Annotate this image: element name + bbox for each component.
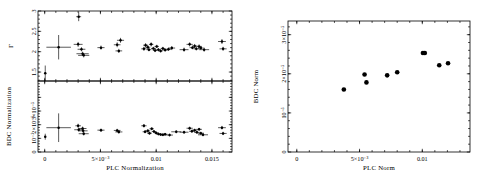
y-tick-label: 2.5	[30, 27, 37, 35]
data-point	[57, 126, 60, 129]
right-x-axis-label: PLC Norm	[363, 164, 395, 171]
data-point	[437, 63, 442, 68]
data-point	[154, 49, 157, 52]
y-tick-label: 2×10⁻⁵	[280, 65, 287, 83]
data-point	[77, 15, 80, 18]
data-point	[147, 130, 150, 133]
data-point	[364, 80, 369, 85]
data-point	[153, 130, 156, 133]
data-point	[183, 131, 186, 134]
y-tick-label: 2	[30, 50, 37, 53]
data-point	[168, 134, 171, 137]
data-point	[200, 132, 203, 135]
data-point	[144, 44, 147, 47]
data-point	[150, 43, 153, 46]
data-point	[385, 73, 390, 78]
data-point	[157, 133, 160, 136]
data-point	[148, 48, 151, 51]
data-point	[82, 130, 85, 133]
y-tick-label: 1.5	[30, 68, 37, 76]
data-point	[119, 39, 122, 42]
x-tick-label: 5×10⁻³	[351, 155, 369, 162]
data-point	[143, 48, 146, 51]
left-panel: 1.522.5305×10⁻³0.010.015010⁻⁵2×10⁻⁵3×10⁻…	[0, 0, 243, 184]
x-tick-label: 0	[43, 155, 46, 162]
data-point	[157, 48, 160, 51]
data-point	[148, 132, 151, 135]
data-point	[446, 61, 451, 66]
data-point	[198, 128, 201, 131]
data-point	[423, 51, 428, 56]
data-point	[342, 87, 347, 92]
data-point	[175, 131, 178, 134]
data-point	[222, 132, 225, 135]
bottom-subplot-frame	[38, 81, 232, 152]
data-point	[159, 50, 162, 53]
y-tick-label: 10⁻⁵	[280, 107, 287, 118]
right-panel: 05×10⁻³0.01010⁻⁵2×10⁻⁵3×10⁻⁵BDC NormPLC …	[243, 0, 485, 184]
data-point	[152, 47, 155, 50]
data-point	[221, 126, 224, 129]
data-point	[188, 43, 191, 46]
data-point	[118, 50, 121, 53]
x-tick-label: 0.01	[151, 155, 162, 162]
data-point	[167, 48, 170, 51]
data-point	[44, 135, 47, 138]
data-point	[395, 70, 400, 75]
data-point	[202, 134, 205, 137]
data-point	[143, 125, 146, 128]
data-point	[188, 127, 191, 130]
data-point	[100, 129, 103, 132]
data-point	[222, 48, 225, 51]
data-point	[171, 47, 174, 50]
right-y-axis-label: BDC Norm	[252, 69, 259, 103]
data-point	[82, 54, 85, 57]
right-plot-frame	[288, 21, 470, 152]
data-point	[116, 44, 119, 47]
data-point	[77, 43, 80, 46]
left-panel-svg: 1.522.5305×10⁻³0.010.015010⁻⁵2×10⁻⁵3×10⁻…	[0, 0, 243, 184]
data-point	[155, 45, 158, 48]
x-tick-label: 0.01	[417, 155, 428, 162]
y-tick-label: 0	[30, 150, 37, 153]
data-point	[57, 46, 60, 49]
data-point	[221, 40, 224, 43]
right-panel-svg: 05×10⁻³0.01010⁻⁵2×10⁻⁵3×10⁻⁵BDC NormPLC …	[243, 0, 485, 184]
x-tick-label: 0.015	[205, 155, 219, 162]
y-tick-label: 0	[280, 150, 287, 153]
data-point	[77, 125, 80, 128]
data-point	[191, 46, 194, 49]
data-point	[44, 72, 47, 75]
data-point	[183, 48, 186, 51]
data-point	[164, 133, 167, 136]
data-point	[195, 48, 198, 51]
x-tick-label: 5×10⁻³	[92, 155, 110, 162]
figure-root: 1.522.5305×10⁻³0.010.015010⁻⁵2×10⁻⁵3×10⁻…	[0, 0, 485, 184]
data-point	[362, 72, 367, 77]
data-point	[80, 48, 83, 51]
data-point	[118, 131, 121, 134]
top-subplot-frame	[38, 11, 232, 81]
data-point	[162, 47, 165, 50]
bottom-subplot-y-label: BDC Normalization	[5, 87, 12, 147]
data-point	[82, 132, 85, 135]
data-point	[193, 129, 196, 132]
data-point	[203, 48, 206, 51]
y-tick-label: 3×10⁻⁵	[280, 26, 287, 44]
y-tick-label: 3	[30, 9, 37, 12]
data-point	[193, 45, 196, 48]
data-point	[100, 46, 103, 49]
x-tick-label: 0	[295, 155, 298, 162]
data-point	[200, 47, 203, 50]
data-point	[162, 134, 165, 137]
x-axis-label: PLC Normalization	[106, 164, 164, 171]
data-point	[150, 128, 153, 131]
y-tick-label: 3×10⁻⁵	[30, 102, 37, 120]
top-subplot-y-label: Γ	[7, 44, 14, 48]
